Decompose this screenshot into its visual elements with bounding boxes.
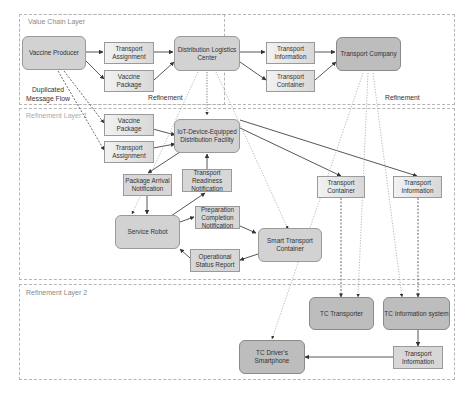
r1-transport-container[interactable]: Transport Container: [317, 176, 365, 198]
iot-device-equipped-distribution-facility[interactable]: IoT-Device-Equipped Distribution Facilit…: [174, 119, 240, 153]
tc-transporter[interactable]: TC Transporter: [309, 297, 374, 330]
edge-transport-container-company: [315, 62, 336, 80]
operational-status-report[interactable]: Operational Status Report: [190, 249, 240, 272]
edge-preparation-smart-container: [240, 226, 256, 233]
tc-information-system[interactable]: TC Information system: [383, 297, 450, 330]
edge-r1-assignment-iot: [153, 144, 175, 148]
vaccine-producer[interactable]: Vaccine Producer: [22, 36, 86, 70]
transport-readiness-notification[interactable]: Transport Readiness Notification: [182, 169, 232, 192]
vc-transport-assignment[interactable]: Transport Assignment: [104, 42, 154, 64]
smart-transport-container[interactable]: Smart Transport Container: [258, 228, 322, 262]
refinement-label-left: Refinement: [148, 94, 183, 103]
vc-transport-container[interactable]: Transport Container: [266, 70, 315, 92]
vc-vaccine-package[interactable]: Vaccine Package: [104, 70, 154, 92]
r1-transport-assignment[interactable]: Transport Assignment: [104, 141, 154, 163]
package-arrival-notification[interactable]: Package Arrival Notification: [123, 174, 172, 196]
edge-producer-vaccine-package: [86, 61, 104, 79]
edge-iot-transport-container: [240, 128, 341, 176]
distribution-logistics-center[interactable]: Distribution Logistics Center: [174, 36, 240, 71]
edge-iot-transport-information: [240, 120, 417, 176]
edge-r1-package-iot: [153, 129, 175, 135]
service-robot[interactable]: Service Robot: [115, 215, 180, 249]
transport-company[interactable]: Transport Company: [336, 37, 401, 71]
edge-dlc-transport-container: [240, 62, 266, 80]
r1-transport-information[interactable]: Transport Information: [393, 176, 442, 198]
r2-transport-information[interactable]: Transport Information: [393, 346, 443, 369]
r1-vaccine-package[interactable]: Vaccine Package: [104, 114, 154, 136]
edge-vaccine-package-dlc: [154, 62, 174, 80]
duplicated-message-flow-label: Duplicated Message Flow: [22, 86, 74, 103]
refinement-label-right: Refinement: [385, 94, 420, 103]
edge-robot-preparation: [180, 217, 194, 222]
edge-smart-container-status: [240, 254, 258, 260]
edge-status-robot: [180, 249, 190, 258]
edge-dup-transport-assignment: [58, 71, 104, 150]
tc-drivers-smartphone[interactable]: TC Driver's Smartphone: [239, 340, 305, 374]
preparation-completion-notification[interactable]: Preparation Completion Notification: [195, 206, 240, 229]
vc-transport-information[interactable]: Transport Information: [266, 42, 315, 64]
